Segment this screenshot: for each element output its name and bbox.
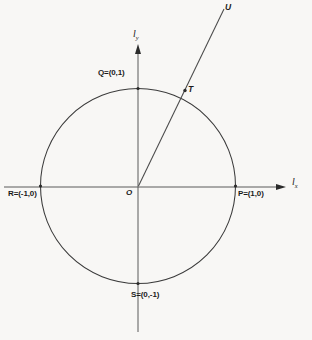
point-label-u: U (225, 2, 231, 12)
x-axis-arrowhead (276, 184, 286, 190)
diagram-canvas (0, 0, 312, 340)
ray-to-u (139, 9, 225, 186)
point-marker-q (136, 87, 139, 90)
point-label-r: R=(-1,0) (8, 189, 37, 198)
point-marker-s (136, 282, 139, 285)
y-axis-label-subscript: y (136, 34, 139, 41)
y-axis-label: ly (133, 28, 139, 41)
x-axis-label: lx (292, 176, 298, 189)
point-marker-t (183, 89, 186, 92)
point-marker-p (234, 184, 237, 187)
point-label-p: P=(1,0) (238, 189, 264, 198)
point-marker-r (39, 184, 42, 187)
x-axis-label-subscript: x (295, 182, 298, 189)
unit-circle-figure: Q=(0,1) P=(1,0) R=(-1,0) S=(0,-1) T U O … (0, 0, 312, 340)
origin-label: O (126, 188, 132, 197)
point-label-q: Q=(0,1) (98, 68, 125, 77)
y-axis-arrowhead (135, 44, 141, 54)
point-label-t: T (188, 84, 193, 94)
point-label-s: S=(0,-1) (131, 290, 159, 299)
